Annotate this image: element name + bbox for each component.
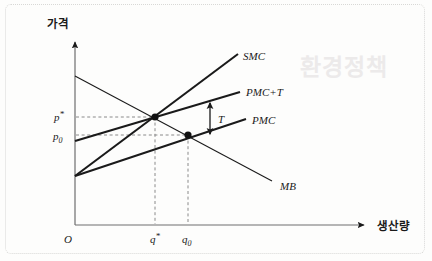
curve-label-smc: SMC xyxy=(243,50,266,62)
curve-pmc xyxy=(75,119,246,176)
equilibrium-point-with-tax xyxy=(151,113,158,120)
equilibrium-point-no-tax xyxy=(184,131,191,138)
tax-gap-label: T xyxy=(218,113,225,125)
diagram-canvas: 가격 생산량 O SMC PMC+T PMC MB T xyxy=(0,0,432,261)
x-axis-title: 생산량 xyxy=(377,219,410,232)
y-tick-labels-group: p* p0 xyxy=(52,109,65,145)
economics-diagram-figure: 환경정책 가격 생산량 O xyxy=(0,0,432,261)
y-axis-title: 가격 xyxy=(47,17,69,30)
curve-label-mb: MB xyxy=(279,180,296,192)
origin-label: O xyxy=(64,233,72,245)
y-tick-label-p-zero: p0 xyxy=(52,130,63,145)
curve-label-pmc-plus-t: PMC+T xyxy=(245,86,284,98)
axes-group xyxy=(75,42,364,225)
curve-label-pmc: PMC xyxy=(251,114,276,126)
x-tick-label-q-zero: q0 xyxy=(182,233,192,248)
x-tick-labels-group: q* q0 xyxy=(150,231,192,248)
x-tick-label-q-star: q* xyxy=(150,231,161,245)
y-tick-label-p-star: p* xyxy=(53,109,65,123)
